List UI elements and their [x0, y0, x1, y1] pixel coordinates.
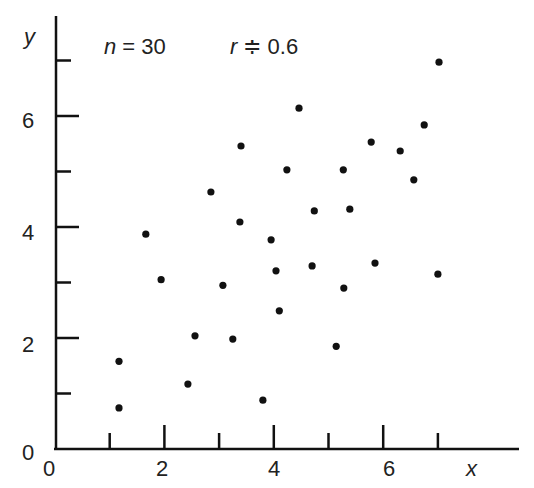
data-point — [340, 285, 347, 292]
r-value: ≑ 0.6 — [237, 34, 298, 59]
y-tick-label-2: 2 — [22, 332, 34, 357]
x-tick-label-0: 0 — [43, 456, 55, 481]
data-points — [115, 59, 442, 412]
data-point — [268, 236, 275, 243]
data-point — [346, 206, 353, 213]
data-point — [207, 188, 214, 195]
x-tick-label-2: 2 — [156, 456, 168, 481]
data-point — [368, 139, 375, 146]
scatter-plot: 6 4 2 0 0 2 4 6 x y n = 30 r ≑ 0.6 — [0, 0, 534, 488]
x-axis-label: x — [465, 456, 478, 481]
x-tick-label-4: 4 — [268, 456, 280, 481]
data-point — [115, 404, 122, 411]
data-point — [340, 166, 347, 173]
data-point — [229, 336, 236, 343]
n-symbol: n — [104, 34, 116, 59]
data-point — [237, 142, 244, 149]
n-value: = 30 — [116, 34, 166, 59]
annotation: n = 30 — [104, 34, 166, 59]
data-point — [311, 207, 318, 214]
x-axis-ticks — [110, 425, 438, 449]
y-axis-ticks — [56, 61, 79, 394]
data-point — [397, 147, 404, 154]
data-point — [410, 176, 417, 183]
data-point — [435, 59, 442, 66]
data-point — [115, 358, 122, 365]
data-point — [309, 262, 316, 269]
data-point — [236, 218, 243, 225]
data-point — [219, 282, 226, 289]
data-point — [259, 397, 266, 404]
data-point — [434, 271, 441, 278]
data-point — [191, 332, 198, 339]
data-point — [295, 105, 302, 112]
data-point — [421, 121, 428, 128]
y-tick-label-6: 6 — [22, 108, 34, 133]
annotation-r: r ≑ 0.6 — [230, 34, 298, 59]
data-point — [272, 267, 279, 274]
data-point — [184, 381, 191, 388]
y-tick-label-4: 4 — [22, 220, 34, 245]
data-point — [142, 231, 149, 238]
data-point — [158, 276, 165, 283]
data-point — [276, 307, 283, 314]
y-axis-label: y — [22, 24, 37, 49]
data-point — [283, 166, 290, 173]
y-tick-label-0: 0 — [22, 440, 34, 465]
data-point — [371, 260, 378, 267]
data-point — [333, 343, 340, 350]
x-tick-label-6: 6 — [383, 456, 395, 481]
